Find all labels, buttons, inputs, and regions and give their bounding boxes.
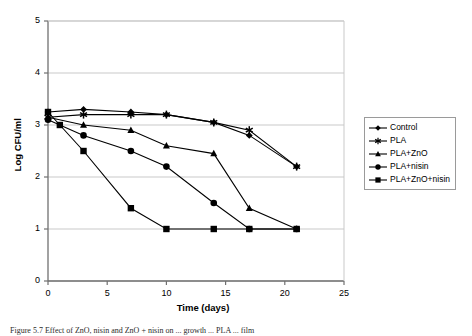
y-axis-title: Log CFU/ml [13,105,23,185]
y-tick-label-4: 4 [26,68,40,77]
x-tick-label-0: 0 [38,289,58,298]
x-tick-label-5: 5 [97,289,117,298]
chart-legend: ControlPLAPLA+ZnOPLA+nisinPLA+ZnO+nisin [364,117,456,190]
series-pla-nisin [45,117,300,233]
legend-marker-asterisk-icon [368,135,388,147]
legend-item-label: PLA [388,136,406,145]
x-tick-label-20: 20 [275,289,295,298]
y-tick-label-5: 5 [26,16,40,25]
legend-item-label: Control [388,123,417,132]
legend-item-pla-zno-nisin: PLA+ZnO+nisin [368,173,453,186]
legend-marker-circle-icon [368,161,388,173]
legend-item-control: Control [368,121,453,134]
y-tick-label-2: 2 [26,172,40,181]
legend-item-label: PLA+ZnO [388,149,428,158]
x-tick-label-25: 25 [334,289,354,298]
legend-item-label: PLA+nisin [388,162,429,171]
x-tick-label-10: 10 [156,289,176,298]
y-tick-label-0: 0 [26,276,40,285]
legend-item-label: PLA+ZnO+nisin [388,175,450,184]
y-tick-label-3: 3 [26,120,40,129]
legend-item-pla: PLA [368,134,453,147]
y-tick-label-1: 1 [26,224,40,233]
legend-item-pla-zno: PLA+ZnO [368,147,453,160]
series-pla [45,111,301,171]
x-axis-title: Time (days) [148,303,258,313]
series-pla-zno [45,113,301,231]
figure-chart: 543210 0510152025 Time (days) Log CFU/ml… [0,0,472,336]
figure-caption: Figure 5.7 Effect of ZnO, nisin and ZnO … [10,326,465,336]
chart-ticks [44,21,344,285]
legend-marker-triangle-icon [368,148,388,160]
legend-item-pla-nisin: PLA+nisin [368,160,453,173]
x-tick-label-15: 15 [216,289,236,298]
legend-marker-square-icon [368,174,388,186]
legend-marker-diamond-icon [368,122,388,134]
